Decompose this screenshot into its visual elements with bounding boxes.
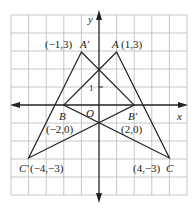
point-b-prime-label: B' (128, 110, 138, 122)
point-c-prime-label: C' (19, 162, 29, 174)
origin-label: O (86, 107, 94, 119)
point-c-prime-coord: (−4,−3) (30, 162, 64, 175)
x-axis-right-arrow-icon (178, 102, 188, 108)
point-a-prime-label: A' (79, 38, 90, 50)
coordinate-diagram: y x O 1 (−1,3) A' A (1,3) B (−2,0) B' (2… (0, 0, 195, 211)
x-axis-label: x (176, 110, 182, 122)
y-axis-down-arrow-icon (96, 193, 102, 203)
axes (10, 10, 188, 203)
point-b-label: B (59, 110, 66, 122)
point-a-prime-coord: (−1,3) (45, 38, 73, 51)
tick-label-1: 1 (89, 83, 94, 93)
point-c-label: C (166, 162, 174, 174)
point-a-label: A (111, 38, 119, 50)
point-c-coord: (4,−3) (133, 162, 161, 175)
y-axis-label: y (87, 13, 93, 25)
point-a-coord: (1,3) (121, 38, 142, 51)
point-b-coord: (−2,0) (46, 123, 74, 136)
point-b-prime-coord: (2,0) (121, 123, 142, 136)
x-axis-left-arrow-icon (10, 102, 20, 108)
